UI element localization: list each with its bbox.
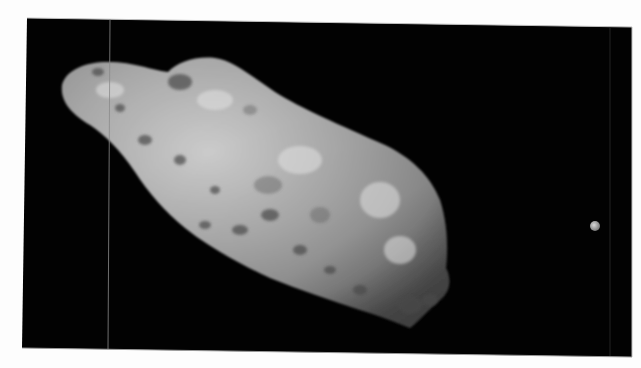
page bbox=[0, 0, 641, 368]
moon bbox=[590, 221, 600, 231]
photo-canvas bbox=[0, 0, 641, 368]
space-photograph bbox=[0, 0, 641, 368]
